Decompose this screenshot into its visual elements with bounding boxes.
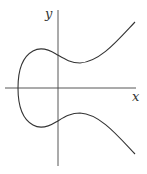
elliptic-curve-diagram: y x bbox=[0, 0, 147, 174]
curve-upper-branch bbox=[18, 22, 135, 88]
x-axis-label: x bbox=[132, 89, 140, 104]
y-axis-label: y bbox=[44, 6, 53, 21]
curve-lower-branch bbox=[18, 88, 135, 154]
